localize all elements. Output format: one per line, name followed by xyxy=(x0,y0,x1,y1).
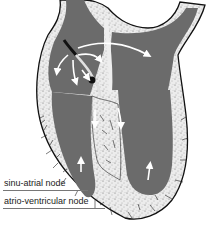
label-atrio-ventricular-node: atrio-ventricular node xyxy=(4,196,89,206)
leader-line-atrio-ventricular xyxy=(3,208,105,209)
atrio-ventricular-node xyxy=(89,77,96,84)
left-atrium xyxy=(111,8,199,90)
label-sinu-atrial-node: sinu-atrial node xyxy=(4,178,66,188)
leader-line-sinu-atrial xyxy=(3,190,88,191)
heart-diagram xyxy=(0,0,208,225)
